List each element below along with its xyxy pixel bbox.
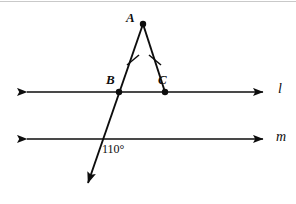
tick-mark-ab-icon <box>127 55 139 65</box>
vertex-dot-b <box>116 89 122 95</box>
vertex-label-b: B <box>106 73 115 86</box>
line-label-m: m <box>276 130 286 144</box>
angle-measure-label: 110° <box>102 143 124 155</box>
transversal-ray <box>88 24 143 183</box>
vertex-label-a: A <box>126 11 135 24</box>
vertex-label-c: C <box>158 73 167 86</box>
vertex-dot-c <box>162 89 168 95</box>
line-label-l: l <box>278 82 282 96</box>
geometry-figure: A B C l m 110° <box>0 0 296 204</box>
geometry-canvas <box>0 0 296 204</box>
vertex-dot-a <box>140 21 146 27</box>
